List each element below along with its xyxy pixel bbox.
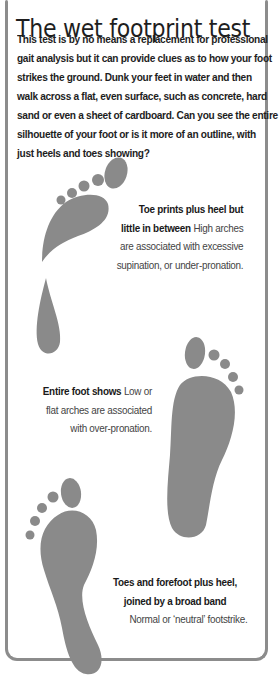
- caption-heading: Toe prints plus heel but: [138, 203, 243, 215]
- caption-body: supination, or under-pronation.: [116, 256, 243, 275]
- caption-body: Normal or ‘neutral’ footstrike.: [111, 610, 240, 629]
- footprint-flat-arch-icon: [167, 336, 243, 538]
- caption-heading: little in between: [121, 222, 191, 234]
- caption-body: Low or: [124, 385, 152, 397]
- caption-body: are associated with excessive: [116, 237, 243, 256]
- caption-heading: Entire foot shows: [43, 385, 122, 397]
- caption-heading: Toes and forefoot plus heel,: [113, 576, 237, 588]
- caption-normal-arch: Toes and forefoot plus heel, joined by a…: [100, 573, 250, 629]
- caption-high-arch: Toe prints plus heel but little in betwe…: [96, 200, 243, 274]
- footprint-normal-arch-icon: [26, 477, 102, 674]
- caption-heading: joined by a broad band: [124, 595, 227, 607]
- caption-flat-arch: Entire foot shows Low or flat arches are…: [25, 382, 152, 438]
- caption-body: flat arches are associated: [43, 401, 152, 420]
- caption-body: with over-pronation.: [43, 419, 152, 438]
- caption-body: High arches: [193, 222, 243, 234]
